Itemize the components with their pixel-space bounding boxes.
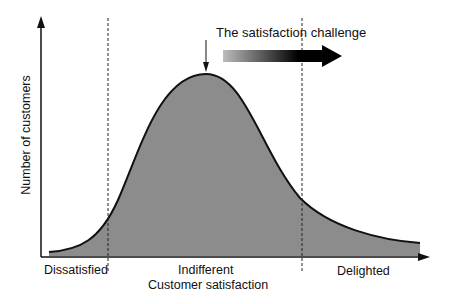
y-axis-arrow-icon bbox=[37, 16, 45, 28]
peak-arrow-icon bbox=[203, 62, 209, 72]
challenge-arrow-shaft bbox=[223, 50, 323, 62]
region-label-indifferent: Indifferent bbox=[178, 263, 233, 277]
diagram-title: The satisfaction challenge bbox=[216, 25, 366, 40]
x-axis-arrow-icon bbox=[418, 253, 430, 261]
satisfaction-diagram bbox=[0, 0, 451, 304]
y-axis-label: Number of customers bbox=[19, 75, 33, 194]
challenge-arrow-head-icon bbox=[322, 45, 342, 67]
x-axis-label: Customer satisfaction bbox=[148, 278, 268, 292]
distribution-curve bbox=[49, 74, 420, 256]
region-label-dissatisfied: Dissatisfied bbox=[44, 263, 108, 277]
region-label-delighted: Delighted bbox=[337, 264, 390, 278]
